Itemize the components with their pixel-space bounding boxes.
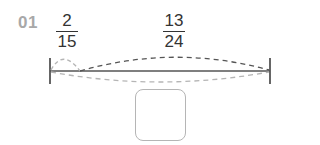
answer-input-box[interactable] [135,89,186,141]
remaining-arc-bottom [51,72,269,82]
part-arc-left [51,59,80,71]
part-arc-right [80,57,269,71]
